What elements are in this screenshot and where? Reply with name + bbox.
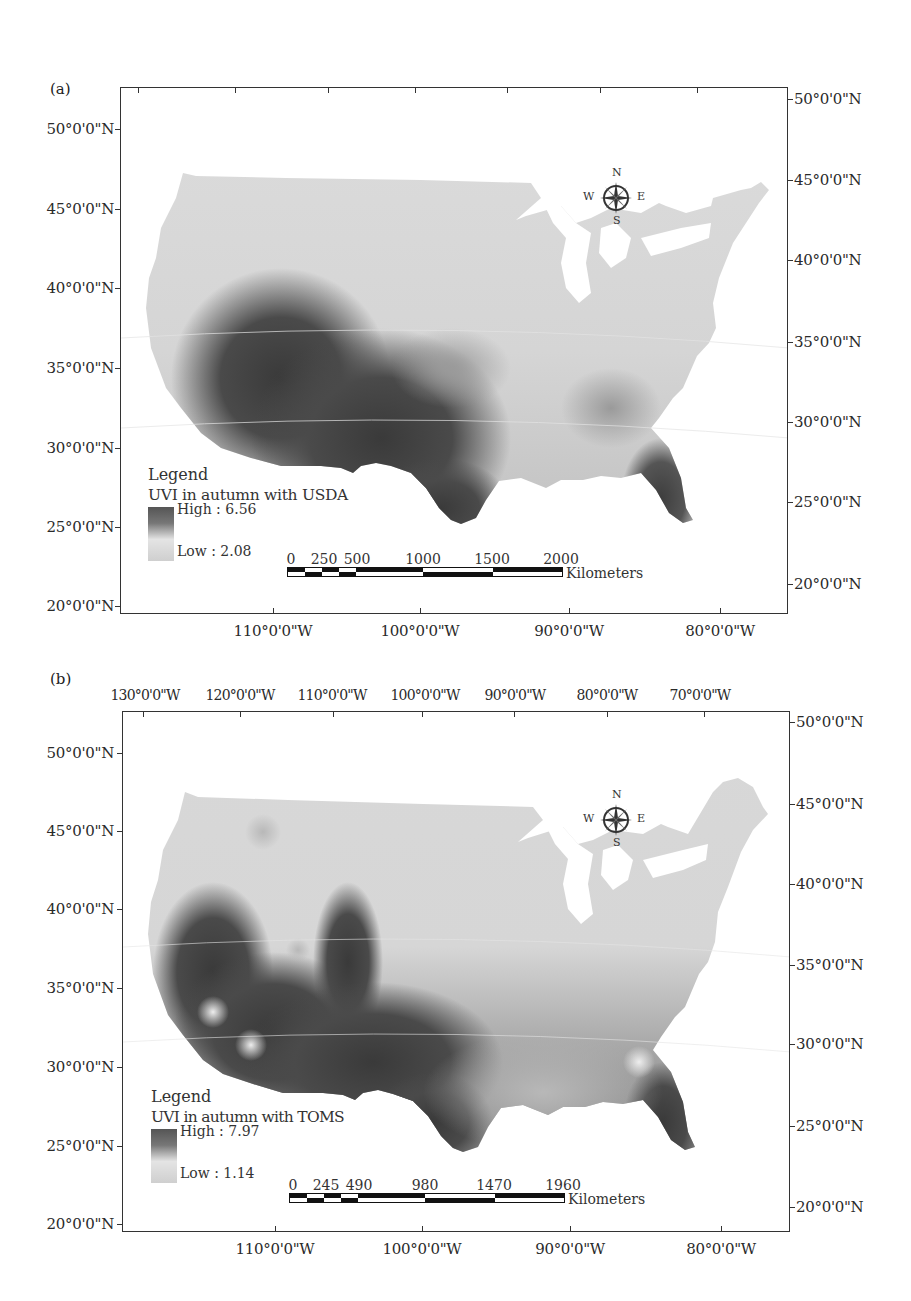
- compass-w: W: [583, 190, 594, 203]
- axis-tick: [600, 87, 601, 93]
- axis-tick: [115, 448, 121, 449]
- panel-label: (a): [50, 80, 71, 98]
- axis-tick: [422, 711, 423, 717]
- top-axis-label: 120°0'0"W: [205, 687, 274, 703]
- right-axis-label: 30°0'0"N: [796, 1035, 863, 1053]
- left-axis-label: 40°0'0"N: [47, 900, 114, 918]
- top-axis-label: 70°0'0"W: [670, 687, 731, 703]
- axis-tick: [720, 608, 721, 614]
- axis-tick: [787, 99, 793, 100]
- right-axis-label: 45°0'0"N: [796, 795, 863, 813]
- right-axis-label: 40°0'0"N: [794, 251, 861, 269]
- legend-color-ramp: [148, 507, 174, 561]
- scale-tick-label: 1000: [405, 551, 441, 567]
- legend-title: Legend: [151, 1087, 344, 1107]
- bottom-axis-label: 110°0'0"W: [236, 1240, 315, 1258]
- bottom-axis-label: 110°0'0"W: [234, 622, 313, 640]
- axis-tick: [415, 87, 416, 93]
- axis-tick: [117, 1067, 123, 1068]
- axis-tick: [721, 1226, 722, 1232]
- right-axis-label: 40°0'0"N: [796, 875, 863, 893]
- axis-tick: [789, 965, 795, 966]
- left-axis-label: 25°0'0"N: [47, 1137, 114, 1155]
- axis-tick: [143, 711, 144, 717]
- axis-tick: [569, 608, 570, 614]
- right-axis-label: 50°0'0"N: [796, 713, 863, 731]
- top-axis-label: 130°0'0"W: [110, 687, 179, 703]
- axis-tick: [704, 711, 705, 717]
- compass-n: N: [612, 166, 622, 179]
- axis-tick: [697, 87, 698, 93]
- legend-title: Legend: [148, 465, 348, 485]
- bottom-axis-label: 80°0'0"W: [686, 1240, 756, 1258]
- panel-a: (a) 130°0'0"W 120°0'0"W 110°0'0"W 100°0'…: [0, 0, 911, 650]
- left-axis-label: 20°0'0"N: [47, 1215, 114, 1233]
- bottom-axis-label: 100°0'0"W: [383, 1240, 462, 1258]
- left-axis-label: 25°0'0"N: [47, 518, 114, 536]
- axis-tick: [117, 1224, 123, 1225]
- axis-tick: [117, 1146, 123, 1147]
- right-axis-label: 45°0'0"N: [794, 171, 861, 189]
- left-axis-label: 50°0'0"N: [47, 744, 114, 762]
- scale-tick-label: 1960: [545, 1177, 581, 1193]
- axis-tick: [115, 288, 121, 289]
- axis-tick: [789, 1126, 795, 1127]
- axis-tick: [117, 988, 123, 989]
- axis-tick: [789, 1044, 795, 1045]
- left-axis-label: 50°0'0"N: [47, 120, 114, 138]
- scale-tick-label: 980: [412, 1177, 439, 1193]
- legend-high-label: High : 6.56: [177, 501, 256, 517]
- scale-bar: 0 245 490 980 1470 1960: [289, 1177, 569, 1203]
- axis-tick: [115, 606, 121, 607]
- axis-tick: [787, 180, 793, 181]
- left-axis-label: 35°0'0"N: [47, 359, 114, 377]
- axis-tick: [115, 527, 121, 528]
- right-axis-label: 25°0'0"N: [794, 493, 861, 511]
- bottom-axis-label: 100°0'0"W: [381, 622, 460, 640]
- right-axis-label: 20°0'0"N: [794, 575, 861, 593]
- axis-tick: [273, 608, 274, 614]
- scale-bar: 0 250 500 1000 1500 2000: [287, 551, 567, 577]
- left-axis-label: 45°0'0"N: [47, 822, 114, 840]
- axis-tick: [607, 711, 608, 717]
- scale-bar-graphic: [287, 567, 563, 577]
- axis-tick: [787, 260, 793, 261]
- axis-tick: [235, 87, 236, 93]
- axis-tick: [789, 804, 795, 805]
- scale-bar-graphic: [289, 1193, 565, 1203]
- axis-tick: [787, 502, 793, 503]
- scale-tick-label: 0: [289, 1177, 298, 1193]
- scale-tick-label: 1470: [476, 1177, 512, 1193]
- map-legend: Legend UVI in autumn with USDA High : 6.…: [148, 465, 348, 561]
- panel-label: (b): [50, 670, 71, 688]
- legend-high-label: High : 7.97: [180, 1123, 259, 1139]
- scale-tick-label: 245: [313, 1177, 340, 1193]
- left-axis-label: 40°0'0"N: [47, 279, 114, 297]
- axis-tick: [789, 884, 795, 885]
- legend-low-label: Low : 1.14: [180, 1165, 259, 1181]
- axis-tick: [422, 1226, 423, 1232]
- left-axis-label: 30°0'0"N: [47, 1058, 114, 1076]
- compass-e: E: [637, 190, 645, 203]
- axis-tick: [789, 722, 795, 723]
- axis-tick: [420, 608, 421, 614]
- right-axis-label: 25°0'0"N: [796, 1117, 863, 1135]
- axis-tick: [507, 87, 508, 93]
- axis-tick: [115, 209, 121, 210]
- axis-tick: [117, 831, 123, 832]
- scale-tick-label: 0: [287, 551, 296, 567]
- axis-tick: [570, 1226, 571, 1232]
- left-axis-label: 45°0'0"N: [47, 200, 114, 218]
- axis-tick: [787, 584, 793, 585]
- map-legend: Legend UVI in autumn with TOMS High : 7.…: [151, 1087, 344, 1183]
- top-axis-label: 100°0'0"W: [390, 687, 459, 703]
- axis-tick: [514, 711, 515, 717]
- compass-n: N: [612, 788, 622, 801]
- scale-tick-label: 250: [311, 551, 338, 567]
- compass-rose-icon: [599, 803, 633, 837]
- map-frame: N W E S Legend UVI in autumn with TOMS: [122, 711, 790, 1232]
- compass-s: S: [613, 214, 621, 227]
- bottom-axis-label: 90°0'0"W: [535, 1240, 605, 1258]
- bottom-axis-label: 80°0'0"W: [685, 622, 755, 640]
- scale-unit-label: Kilometers: [566, 565, 643, 581]
